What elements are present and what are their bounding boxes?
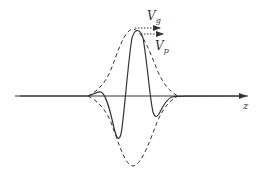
carrier-wave	[20, 31, 248, 139]
envelope-lower	[88, 96, 178, 166]
wave-packet-diagram: z Vg Vp	[0, 0, 260, 178]
phase-velocity-label: Vp	[155, 39, 169, 55]
group-velocity-label: Vg	[147, 9, 161, 25]
envelope-upper	[88, 29, 178, 96]
z-axis-label: z	[242, 100, 249, 111]
